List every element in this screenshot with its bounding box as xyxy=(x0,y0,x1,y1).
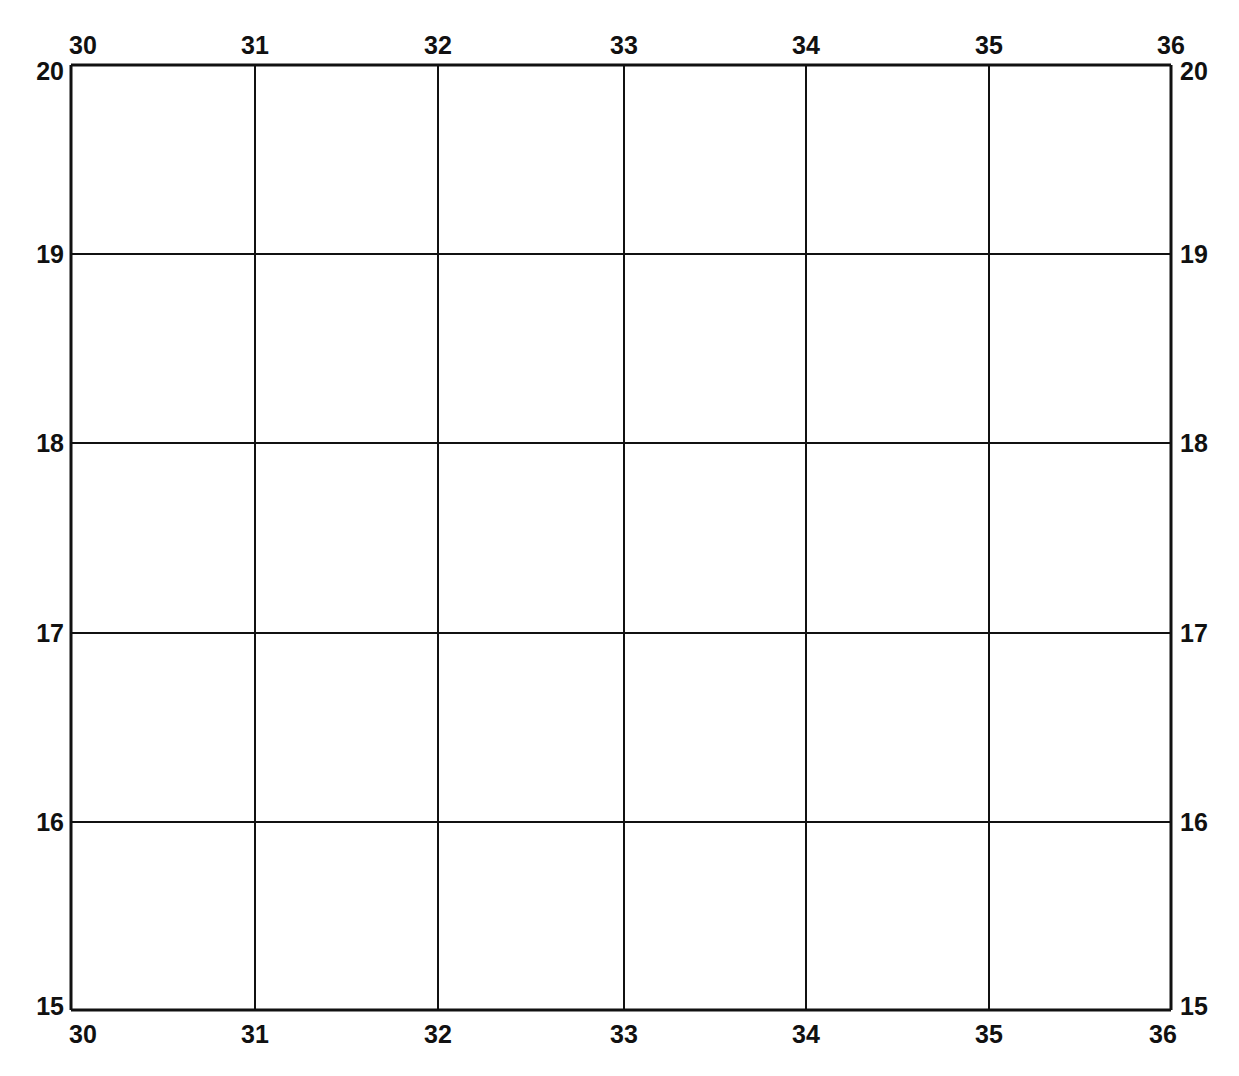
latitude-label-right: 20 xyxy=(1180,59,1208,84)
latitude-label-right: 18 xyxy=(1180,431,1208,456)
latitude-label-left: 16 xyxy=(36,810,64,835)
longitude-label-top: 35 xyxy=(975,33,1003,58)
longitude-label-bottom: 30 xyxy=(69,1022,97,1047)
longitude-label-top: 34 xyxy=(792,33,820,58)
longitude-label-top: 31 xyxy=(241,33,269,58)
longitude-label-top: 36 xyxy=(1157,33,1185,58)
longitude-label-bottom: 34 xyxy=(792,1022,820,1047)
latitude-label-right: 16 xyxy=(1180,810,1208,835)
longitude-label-top: 33 xyxy=(610,33,638,58)
latitude-label-right: 17 xyxy=(1180,621,1208,646)
latitude-label-left: 15 xyxy=(36,994,64,1019)
latitude-label-left: 20 xyxy=(36,59,64,84)
latitude-label-left: 19 xyxy=(36,242,64,267)
latitude-label-left: 18 xyxy=(36,431,64,456)
longitude-label-top: 32 xyxy=(424,33,452,58)
latitude-label-right: 15 xyxy=(1180,994,1208,1019)
longitude-label-bottom: 32 xyxy=(424,1022,452,1047)
map-grid xyxy=(0,0,1239,1076)
longitude-label-bottom: 35 xyxy=(975,1022,1003,1047)
latitude-label-left: 17 xyxy=(36,621,64,646)
latitude-label-right: 19 xyxy=(1180,242,1208,267)
longitude-label-bottom: 36 xyxy=(1149,1022,1177,1047)
longitude-label-bottom: 31 xyxy=(241,1022,269,1047)
longitude-label-bottom: 33 xyxy=(610,1022,638,1047)
longitude-label-top: 30 xyxy=(69,33,97,58)
